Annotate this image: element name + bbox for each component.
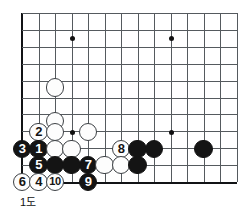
go-diagram-figure: 23185764109 1도 [0, 0, 243, 211]
grid-line-horizontal [22, 47, 237, 48]
stone-move-number: 8 [118, 142, 125, 155]
stone-move-number: 1 [35, 142, 42, 155]
grid-line-horizontal [22, 13, 237, 14]
stone-move-number: 2 [35, 125, 42, 138]
stone-white-move-2[interactable]: 2 [29, 123, 47, 141]
stone-move-number: 9 [85, 175, 92, 188]
go-board[interactable]: 23185764109 [0, 0, 243, 211]
stone-white[interactable] [79, 123, 97, 141]
stone-black[interactable] [62, 156, 80, 174]
figure-caption: 1도 [20, 193, 36, 209]
stone-move-number: 7 [85, 158, 92, 171]
stone-move-number: 10 [49, 176, 60, 187]
star-point [169, 130, 174, 135]
stone-white-move-10[interactable]: 10 [46, 173, 64, 191]
stone-black[interactable] [145, 140, 163, 158]
grid-line-horizontal [22, 98, 237, 99]
stone-move-number: 4 [35, 175, 42, 188]
stone-black-move-9[interactable]: 9 [79, 173, 97, 191]
stone-move-number: 5 [35, 158, 42, 171]
star-point [70, 130, 75, 135]
stone-white-move-4[interactable]: 4 [29, 173, 47, 191]
grid-line-vertical [237, 13, 238, 182]
grid-line-horizontal [22, 64, 237, 65]
stone-black[interactable] [194, 140, 212, 158]
stone-move-number: 6 [19, 175, 26, 188]
stone-white[interactable] [95, 156, 113, 174]
stone-black[interactable] [128, 156, 146, 174]
star-point [70, 36, 75, 41]
stone-black-move-5[interactable]: 5 [29, 156, 47, 174]
stone-move-number: 3 [19, 142, 26, 155]
star-point [169, 36, 174, 41]
grid-line-horizontal [22, 30, 237, 31]
stone-white[interactable] [46, 123, 64, 141]
stone-white[interactable] [46, 78, 64, 96]
